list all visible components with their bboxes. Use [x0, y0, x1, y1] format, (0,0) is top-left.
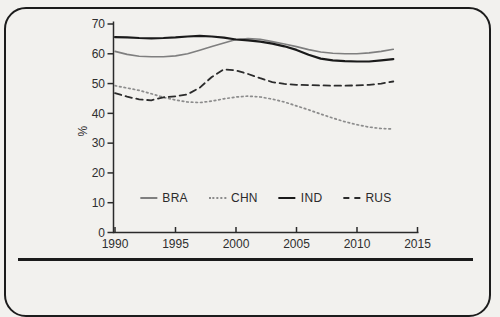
y-tick-label: 30 [92, 136, 106, 150]
chart-legend: BRACHNINDRUS [140, 191, 391, 205]
y-tick-label: 60 [92, 47, 106, 61]
x-tick-label: 2015 [404, 237, 431, 251]
x-tick-label: 2010 [344, 237, 371, 251]
y-tick-label: 50 [92, 77, 106, 91]
y-axis-label: % [76, 126, 90, 137]
legend-item-rus: RUS [343, 191, 391, 205]
bottom-divider-rule [18, 258, 473, 261]
legend-label: IND [301, 191, 323, 205]
y-tick-label: 70 [92, 17, 106, 31]
x-tick-label: 1995 [162, 237, 189, 251]
x-tick-label: 1990 [102, 237, 129, 251]
x-tick-label: 2005 [283, 237, 310, 251]
legend-line-sample-solid [279, 197, 296, 199]
series-line-ind [115, 36, 393, 62]
legend-line-sample-dotted [209, 197, 226, 199]
legend-item-ind: IND [279, 191, 323, 205]
legend-label: CHN [231, 191, 258, 205]
legend-item-chn: CHN [209, 191, 258, 205]
y-tick-label: 10 [92, 196, 106, 210]
legend-label: BRA [162, 191, 188, 205]
legend-label: RUS [365, 191, 391, 205]
series-line-chn [115, 86, 393, 129]
legend-line-sample-solid [140, 197, 157, 199]
y-tick-label: 40 [92, 107, 106, 121]
legend-line-sample-dashed [343, 197, 360, 199]
y-tick-label: 20 [92, 166, 106, 180]
x-tick-label: 2000 [223, 237, 250, 251]
legend-item-bra: BRA [140, 191, 188, 205]
